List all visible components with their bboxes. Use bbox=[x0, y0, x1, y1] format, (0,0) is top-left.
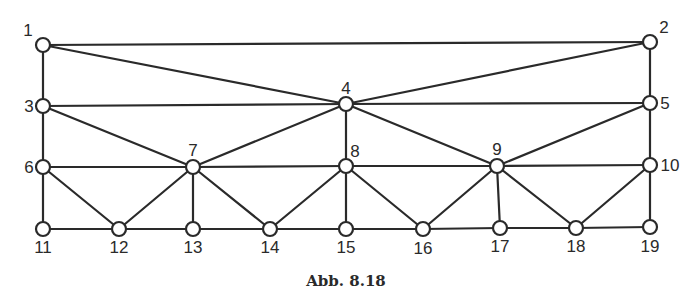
node-2 bbox=[643, 35, 657, 49]
node-10 bbox=[643, 158, 657, 172]
node-label-3: 3 bbox=[24, 97, 33, 116]
node-label-11: 11 bbox=[34, 238, 52, 257]
node-label-7: 7 bbox=[188, 141, 197, 160]
edge-7-14 bbox=[193, 167, 270, 229]
node-label-9: 9 bbox=[492, 140, 501, 159]
node-label-12: 12 bbox=[110, 238, 129, 257]
edge-16-17 bbox=[423, 228, 500, 229]
node-label-18: 18 bbox=[567, 237, 586, 256]
node-17 bbox=[493, 221, 507, 235]
node-14 bbox=[263, 222, 277, 236]
node-label-17: 17 bbox=[491, 237, 510, 256]
edge-10-18 bbox=[576, 165, 650, 228]
edges-group bbox=[43, 42, 650, 229]
edge-3-7 bbox=[43, 106, 193, 167]
node-label-10: 10 bbox=[661, 156, 680, 175]
node-label-6: 6 bbox=[24, 158, 33, 177]
edge-9-16 bbox=[423, 166, 497, 229]
edge-1-4 bbox=[43, 45, 346, 104]
node-16 bbox=[416, 222, 430, 236]
node-label-4: 4 bbox=[341, 79, 350, 98]
node-7 bbox=[186, 160, 200, 174]
node-label-19: 19 bbox=[641, 237, 660, 256]
node-label-14: 14 bbox=[261, 238, 280, 257]
node-19 bbox=[643, 220, 657, 234]
figure-caption: Abb. 8.18 bbox=[0, 272, 692, 290]
edge-1-2 bbox=[43, 42, 650, 45]
edge-6-12 bbox=[43, 167, 119, 229]
node-label-16: 16 bbox=[414, 239, 433, 258]
edge-4-5 bbox=[346, 103, 650, 104]
node-label-5: 5 bbox=[660, 94, 669, 113]
edge-9-17 bbox=[497, 166, 500, 228]
node-label-15: 15 bbox=[337, 238, 356, 257]
node-11 bbox=[36, 222, 50, 236]
truss-graph-diagram: 12345678910111213141516171819 bbox=[0, 0, 692, 302]
edge-8-16 bbox=[346, 166, 423, 229]
node-3 bbox=[36, 99, 50, 113]
node-6 bbox=[36, 160, 50, 174]
edge-3-4 bbox=[43, 104, 346, 106]
edge-7-8 bbox=[193, 166, 346, 167]
node-18 bbox=[569, 221, 583, 235]
node-label-2: 2 bbox=[659, 18, 668, 37]
node-label-8: 8 bbox=[350, 142, 359, 161]
edge-7-12 bbox=[119, 167, 193, 229]
node-1 bbox=[36, 38, 50, 52]
node-label-1: 1 bbox=[23, 21, 32, 40]
edge-18-19 bbox=[576, 227, 650, 228]
node-8 bbox=[339, 159, 353, 173]
node-15 bbox=[339, 222, 353, 236]
edge-2-4 bbox=[346, 42, 650, 104]
node-13 bbox=[186, 222, 200, 236]
edge-9-18 bbox=[497, 166, 576, 228]
edge-9-10 bbox=[497, 165, 650, 166]
node-4 bbox=[339, 97, 353, 111]
edge-4-7 bbox=[193, 104, 346, 167]
node-9 bbox=[490, 159, 504, 173]
node-5 bbox=[643, 96, 657, 110]
edge-8-14 bbox=[270, 166, 346, 229]
node-label-13: 13 bbox=[184, 238, 203, 257]
edge-5-9 bbox=[497, 103, 650, 166]
edge-4-9 bbox=[346, 104, 497, 166]
node-12 bbox=[112, 222, 126, 236]
